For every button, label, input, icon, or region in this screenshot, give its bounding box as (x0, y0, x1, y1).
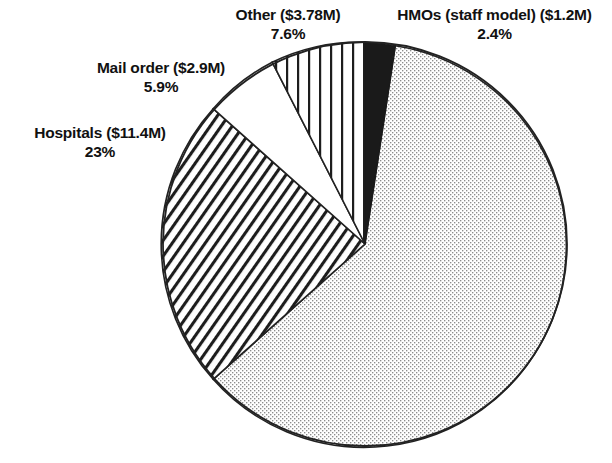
pie-label-mail-order-percent: 5.9% (66, 77, 256, 96)
pie-label-other-name: Other ($3.78M) (199, 5, 377, 24)
pie-label-hospitals-percent: 23% (2, 142, 198, 161)
pie-label-hospitals-name: Hospitals ($11.4M) (2, 123, 198, 142)
pie-label-hospitals: Hospitals ($11.4M) 23% (2, 123, 198, 161)
pie-chart-figure: Other ($3.78M) 7.6% HMOs (staff model) (… (0, 0, 612, 463)
pie-label-other: Other ($3.78M) 7.6% (199, 5, 377, 43)
pie-label-hmos-name: HMOs (staff model) ($1.2M) (377, 5, 612, 24)
pie-label-mail-order: Mail order ($2.9M) 5.9% (66, 58, 256, 96)
pie-label-other-percent: 7.6% (199, 24, 377, 43)
pie-label-mail-order-name: Mail order ($2.9M) (66, 58, 256, 77)
pie-label-hmos-percent: 2.4% (377, 24, 612, 43)
pie-label-hmos: HMOs (staff model) ($1.2M) 2.4% (377, 5, 612, 43)
